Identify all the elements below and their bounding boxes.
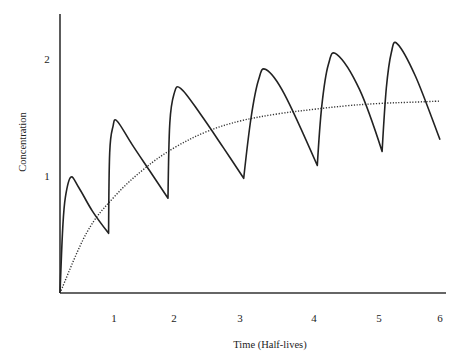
x-tick-label: 3 [237,312,243,324]
x-tick-labels: 123456 [111,312,443,324]
x-tick-label: 1 [111,312,117,324]
y-tick-label: 2 [44,53,50,65]
y-axis-title: Concentration [17,112,28,172]
x-tick-label: 4 [311,312,317,324]
y-tick-label: 1 [44,170,50,182]
chart: 123456 12 Time (Half-lives) Concentratio… [0,0,464,362]
x-tick-label: 2 [171,312,177,324]
x-tick-label: 6 [437,312,443,324]
y-tick-labels: 12 [44,53,50,182]
axes [60,14,446,293]
x-tick-label: 5 [376,312,382,324]
x-axis-title: Time (Half-lives) [233,339,307,351]
concentration-curve-solid [60,42,440,293]
